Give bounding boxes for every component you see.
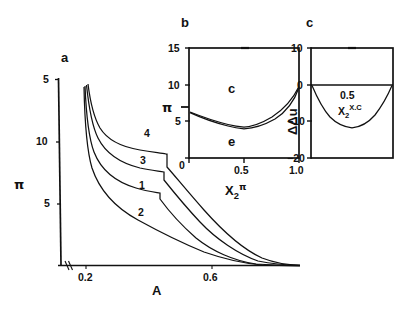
panel-b-ytick-label-15: 15 [168, 43, 180, 54]
panel-c-y-axis-title: ΔΔu [286, 108, 299, 135]
panel-a-ytick-label-low: 5 [44, 198, 50, 209]
panel-b-ytick-label-5: 5 [175, 116, 181, 127]
panel-a-x-axis-title: A [152, 284, 161, 297]
panel-c-inner-curve-sup: X.C [349, 103, 362, 112]
panel-b-ytick-label-10: 10 [168, 80, 180, 91]
panel-b-x-axis-title: X2π [225, 182, 246, 201]
panel-a-ytick-label-top: 5 [43, 74, 49, 85]
figure-canvas [0, 0, 408, 309]
panel-c-ytick-label-0: 0 [297, 80, 303, 91]
panel-c-inner-curve-label: X2X.C [338, 104, 362, 119]
panel-b-letter: b [181, 16, 189, 29]
panel-c-letter: c [306, 16, 313, 29]
panel-c-inner-label-05: 0.5 [340, 90, 355, 101]
panel-a-ytick-label-mid: 10 [36, 136, 48, 147]
panel-b-axes [181, 48, 299, 163]
panel-a-xtick-label-02: 0.2 [78, 272, 93, 283]
panel-b-xtick-label-10: 1.0 [289, 165, 304, 176]
panel-c-inner-curve-base: X [338, 105, 345, 117]
panel-b-frame [189, 48, 299, 158]
panel-a-letter: a [61, 51, 68, 64]
panel-a-xtick-label-06: 0.6 [203, 272, 218, 283]
panel-a-y-axis-title: π [14, 178, 24, 191]
panel-b-xtick-label-05: 0.5 [234, 165, 249, 176]
panel-a-curve-label-2: 2 [138, 207, 144, 218]
panel-a-curve-label-4: 4 [144, 128, 150, 139]
panel-b-x-axis-title-sup: π [239, 181, 246, 192]
panel-a-curves [84, 84, 300, 266]
panel-a-curve-label-3: 3 [140, 155, 146, 166]
panel-c-ytick-label-10: 10 [291, 43, 303, 54]
panel-a-curve-label-1: 1 [139, 180, 145, 191]
panel-a-curve-4 [88, 84, 300, 265]
panel-b-x-axis-title-sub: 2 [234, 191, 239, 201]
panel-a-curve-3 [87, 85, 301, 265]
panel-b-ytick-label-0: 0 [179, 160, 185, 171]
panel-b-upper-branch [190, 87, 299, 128]
scientific-figure: a b c 5 10 5 0.2 0.6 A π 4 3 1 2 15 10 5… [0, 0, 408, 309]
panel-b-curves [190, 87, 299, 129]
panel-c-ytick-label-minus20: −20 [287, 153, 305, 164]
panel-b-region-label-e: e [228, 135, 235, 148]
panel-b-x-axis-title-base: X [225, 183, 234, 198]
panel-b-region-label-c: c [228, 82, 235, 95]
panel-a-y-axis [59, 78, 62, 265]
panel-b-y-axis-title: π [162, 101, 172, 114]
